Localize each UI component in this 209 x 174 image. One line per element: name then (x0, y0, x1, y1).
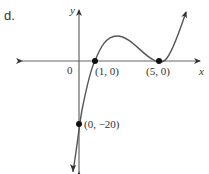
y-axis-label: y (69, 4, 75, 16)
point-5-0 (156, 58, 162, 64)
graph: y x 0 (1, 0) (5, 0) (0, −20) (0, 0, 209, 174)
cubic-curve (73, 12, 186, 172)
point-label-5-0: (5, 0) (146, 65, 170, 78)
point-1-0 (92, 58, 98, 64)
point-label-1-0: (1, 0) (95, 65, 119, 78)
point-label-0-neg20: (0, −20) (84, 118, 120, 131)
curve-start-arrow-icon (70, 164, 76, 172)
point-0-neg20 (76, 121, 82, 127)
origin-label: 0 (67, 64, 73, 76)
x-axis-label: x (198, 65, 204, 77)
